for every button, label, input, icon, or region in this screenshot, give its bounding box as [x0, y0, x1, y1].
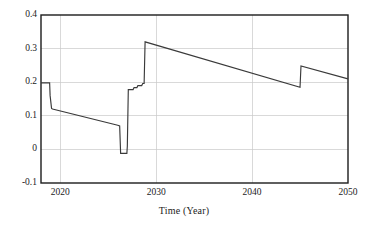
gridlines: [41, 15, 348, 183]
y-tick-label: -0.1: [22, 178, 37, 188]
x-tick-label: 2050: [328, 188, 368, 198]
y-tick-label: 0.2: [25, 77, 37, 87]
y-tick-label: 0: [32, 144, 37, 154]
y-tick-label: 0.4: [25, 10, 37, 20]
y-tick-label: 0.1: [25, 111, 37, 121]
x-axis-title: Time (Year): [0, 205, 368, 216]
line-series-value: [41, 42, 348, 154]
plot-frame: [41, 15, 348, 183]
data-series: [41, 42, 348, 154]
y-tick-label: 0.3: [25, 44, 37, 54]
plot-area: [0, 0, 368, 233]
x-tick-label: 2020: [40, 188, 80, 198]
chart-figure: -0.100.10.20.30.4 2020203020402050 Time …: [0, 0, 368, 233]
x-tick-label: 2030: [136, 188, 176, 198]
x-tick-label: 2040: [232, 188, 272, 198]
